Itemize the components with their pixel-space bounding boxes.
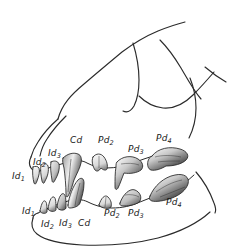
label-lower-pd2: Pd2 — [104, 208, 120, 220]
label-upper-cd: Cd — [70, 135, 82, 145]
label-lower-pd4: Pd4 — [166, 197, 182, 209]
label-lower-id1: Id1 — [22, 206, 35, 218]
label-lower-id2: Id2 — [41, 219, 54, 231]
figure-canvas: Id1 Id2 Id3 Cd Pd2 Pd3 Pd4 Id1 — [0, 0, 236, 249]
label-lower-pd3: Pd3 — [128, 208, 144, 220]
tooth-lower-id3 — [57, 194, 66, 210]
tooth-upper-pd3 — [115, 157, 143, 190]
tooth-upper-pd2 — [92, 154, 107, 171]
label-lower-id3: Id3 — [59, 218, 72, 230]
label-upper-id3: Id3 — [48, 148, 61, 160]
tooth-lower-pd2 — [99, 196, 111, 208]
tooth-lower-id1 — [40, 201, 47, 214]
label-upper-id1: Id1 — [12, 171, 25, 183]
label-lower-cd: Cd — [78, 218, 90, 228]
label-upper-pd2: Pd2 — [98, 135, 114, 147]
label-upper-pd3: Pd3 — [128, 144, 144, 156]
tooth-upper-id3 — [51, 161, 60, 182]
tooth-lower-id2 — [48, 197, 56, 212]
skull-illustration: Id1 Id2 Id3 Cd Pd2 Pd3 Pd4 Id1 — [0, 0, 236, 249]
cranium-outline — [58, 22, 226, 138]
label-upper-pd4: Pd4 — [156, 133, 172, 145]
tooth-upper-pd4 — [148, 148, 188, 171]
tooth-upper-id1 — [33, 166, 40, 184]
